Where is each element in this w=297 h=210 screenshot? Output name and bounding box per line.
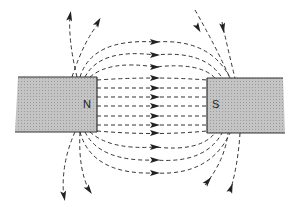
north-pole-label: N	[83, 98, 91, 110]
arrow-icon	[219, 23, 227, 34]
north-magnet: N	[15, 77, 97, 132]
arrow-icon	[150, 85, 160, 91]
south-magnet: S	[207, 78, 285, 133]
arrow-icon	[150, 157, 160, 163]
arrow-icon	[60, 191, 68, 202]
arrow-icon	[193, 22, 203, 34]
arrow-icon	[150, 170, 160, 176]
magnetic-field-diagram: N S	[0, 0, 297, 210]
arrow-icon	[84, 184, 95, 196]
arrow-icon	[150, 75, 160, 81]
arrow-icon	[150, 130, 160, 136]
arrow-icon	[150, 52, 160, 58]
arrow-icon	[150, 103, 160, 109]
arrow-icon	[150, 94, 160, 100]
arrow-icon	[150, 122, 160, 128]
arrow-icon	[150, 64, 160, 70]
south-pole-label: S	[212, 98, 219, 110]
arrow-icon	[202, 175, 213, 187]
arrow-icon	[93, 16, 103, 28]
arrow-icon	[150, 113, 160, 119]
arrow-icon	[226, 182, 235, 193]
